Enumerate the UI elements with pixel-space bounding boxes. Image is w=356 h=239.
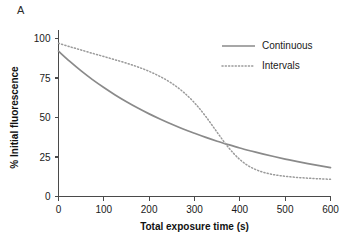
y-axis-title: % Initial fluorescence bbox=[9, 66, 20, 169]
x-tick-label: 400 bbox=[231, 204, 248, 215]
line-chart: 0100200300400500600 0255075100 Total exp… bbox=[0, 0, 356, 239]
x-tick-label: 100 bbox=[95, 204, 112, 215]
x-tick-label: 500 bbox=[277, 204, 294, 215]
y-tick-label: 25 bbox=[39, 152, 51, 163]
chart-legend: ContinuousIntervals bbox=[222, 40, 313, 71]
figure-panel: A 0100200300400500600 0255075100 Total e… bbox=[0, 0, 356, 239]
y-tick-label: 100 bbox=[34, 33, 51, 44]
y-tick-label: 50 bbox=[39, 112, 51, 123]
x-axis-title: Total exposure time (s) bbox=[140, 221, 249, 232]
x-axis-tick-labels: 0100200300400500600 bbox=[56, 204, 340, 215]
x-tick-label: 600 bbox=[322, 204, 339, 215]
y-axis-tick-labels: 0255075100 bbox=[34, 33, 51, 202]
x-tick-label: 200 bbox=[141, 204, 158, 215]
legend-label-intervals: Intervals bbox=[262, 60, 300, 71]
y-tick-label: 75 bbox=[39, 73, 51, 84]
axes bbox=[55, 30, 331, 201]
legend-label-continuous: Continuous bbox=[262, 40, 313, 51]
y-axis-ticks bbox=[55, 39, 59, 197]
y-tick-label: 0 bbox=[45, 191, 51, 202]
x-tick-label: 0 bbox=[56, 204, 62, 215]
x-tick-label: 300 bbox=[186, 204, 203, 215]
x-axis-ticks bbox=[59, 197, 331, 201]
